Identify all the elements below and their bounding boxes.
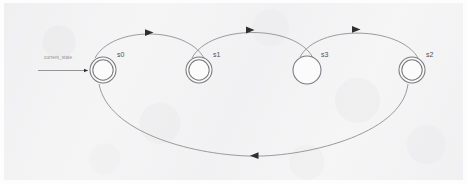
transition-s2-s0 [99, 84, 408, 159]
diagram-canvas: current_state [0, 0, 467, 184]
transition-s0-s1-path [95, 34, 204, 58]
transition-s3-s2 [300, 26, 418, 58]
state-s2-inner-circle [402, 60, 422, 80]
initial-transition-label: current_state [44, 55, 72, 60]
state-s3-label: s3 [321, 51, 329, 58]
transition-s1-s3-path [192, 33, 313, 59]
state-node-s1[interactable]: s1 [186, 51, 221, 83]
state-s3-outer-circle [293, 56, 321, 84]
state-s1-label: s1 [213, 51, 221, 58]
state-node-s3[interactable]: s3 [293, 51, 329, 84]
state-machine-diagram: current_state [0, 0, 467, 184]
transition-s2-s0-path [99, 84, 408, 156]
transition-s2-s0-arrowhead [250, 152, 259, 159]
state-s2-label: s2 [426, 51, 434, 58]
transition-s0-s1 [95, 29, 204, 58]
states-group: s0 s1 s3 s2 [90, 51, 434, 84]
state-s0-label: s0 [117, 51, 125, 58]
state-s0-inner-circle [93, 60, 113, 80]
state-s1-inner-circle [189, 60, 209, 80]
transition-s3-s2-arrowhead [352, 26, 361, 33]
transition-s3-s2-path [300, 33, 418, 58]
initial-transition: current_state [38, 55, 88, 71]
transition-edges [95, 26, 418, 159]
state-node-s0[interactable]: s0 [90, 51, 125, 83]
transition-s1-s3 [192, 27, 313, 58]
transition-s0-s1-arrowhead [145, 29, 154, 36]
